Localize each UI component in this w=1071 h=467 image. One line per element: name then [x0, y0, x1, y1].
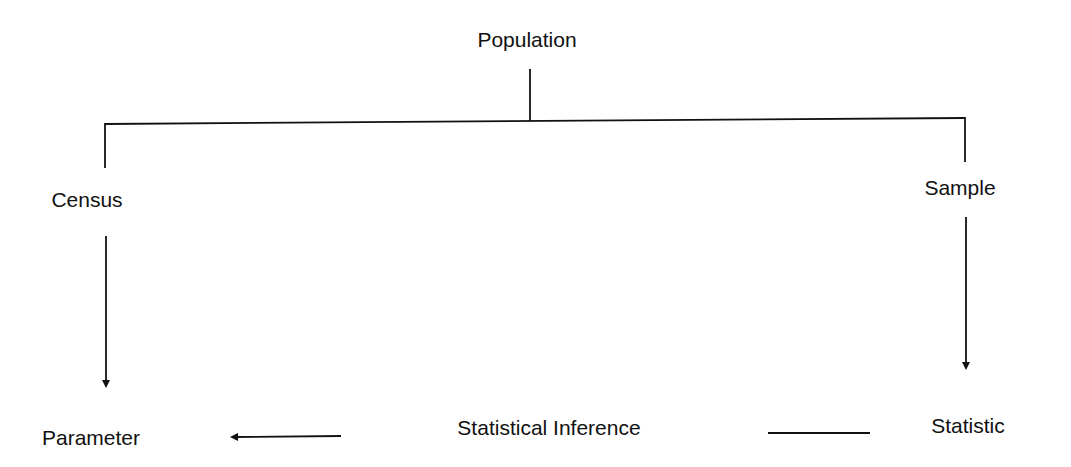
- node-parameter: Parameter: [42, 427, 140, 448]
- node-census: Census: [51, 189, 122, 210]
- node-statistical-inference: Statistical Inference: [457, 417, 640, 438]
- node-statistic: Statistic: [931, 415, 1005, 436]
- node-sample: Sample: [924, 177, 995, 198]
- diagram-connectors: [0, 0, 1071, 467]
- branch-bar: [105, 118, 965, 124]
- node-population: Population: [477, 29, 576, 50]
- inference-to-parameter-arrow: [232, 436, 341, 437]
